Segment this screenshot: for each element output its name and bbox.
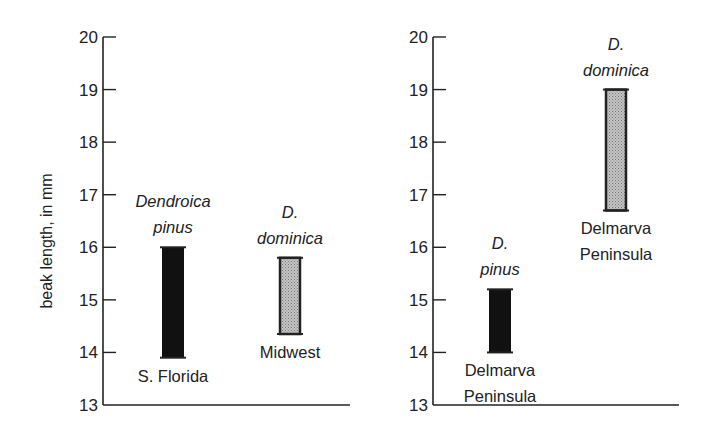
region-label: Delmarva xyxy=(581,219,652,237)
chart-panel-left: 1314151617181920beak length, in mmDendro… xyxy=(38,28,350,415)
species-label: D. xyxy=(282,203,299,221)
y-tick-label: 19 xyxy=(79,81,98,100)
y-tick-label: 14 xyxy=(79,343,98,362)
y-tick-label: 16 xyxy=(409,238,428,257)
y-tick-label: 17 xyxy=(79,186,98,205)
bar-body xyxy=(489,289,511,352)
region-label: Delmarva xyxy=(465,361,536,379)
bar-body xyxy=(280,258,300,334)
range-bar: DendroicapinusS. Florida xyxy=(135,192,210,384)
species-label: D. xyxy=(608,35,625,53)
chart-panel-right: 1314151617181920D.pinusDelmarvaPeninsula… xyxy=(409,28,679,415)
region-label: Midwest xyxy=(260,343,321,361)
y-axis-title: beak length, in mm xyxy=(38,173,55,308)
y-tick-label: 14 xyxy=(409,343,428,362)
species-label: dominica xyxy=(257,229,323,247)
y-tick-label: 20 xyxy=(409,28,428,47)
y-tick-label: 18 xyxy=(409,133,428,152)
range-bar: D.pinusDelmarvaPeninsula xyxy=(464,234,537,405)
beak-length-charts: 1314151617181920beak length, in mmDendro… xyxy=(0,0,709,442)
y-tick-label: 16 xyxy=(79,238,98,257)
range-bar: D.dominicaDelmarvaPeninsula xyxy=(580,35,653,264)
y-tick-label: 20 xyxy=(79,28,98,47)
region-label: Peninsula xyxy=(580,245,653,263)
y-tick-label: 15 xyxy=(409,291,428,310)
species-label: pinus xyxy=(152,218,192,236)
species-label: Dendroica xyxy=(135,192,210,210)
bar-body xyxy=(606,90,626,211)
y-tick-label: 13 xyxy=(409,396,428,415)
y-tick-label: 17 xyxy=(409,186,428,205)
species-label: dominica xyxy=(583,61,649,79)
y-tick-label: 13 xyxy=(79,396,98,415)
region-label: Peninsula xyxy=(464,387,537,405)
species-label: pinus xyxy=(479,260,519,278)
species-label: D. xyxy=(492,234,509,252)
region-label: S. Florida xyxy=(138,367,209,385)
range-bar: D.dominicaMidwest xyxy=(257,203,323,361)
y-tick-label: 15 xyxy=(79,291,98,310)
bar-body xyxy=(162,247,184,357)
y-tick-label: 19 xyxy=(409,81,428,100)
y-tick-label: 18 xyxy=(79,133,98,152)
